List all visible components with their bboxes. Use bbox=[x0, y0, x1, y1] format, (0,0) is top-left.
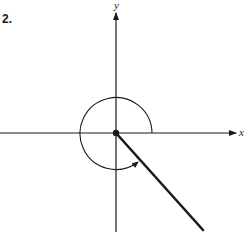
angle-diagram bbox=[0, 0, 246, 241]
origin-vertex-dot bbox=[113, 130, 119, 136]
terminal-side-ray bbox=[116, 133, 203, 230]
